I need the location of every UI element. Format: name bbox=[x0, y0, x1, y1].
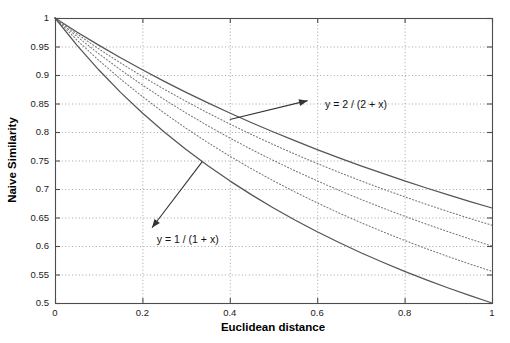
x-tick-label: 1 bbox=[489, 307, 494, 318]
y-tick-label: 0.55 bbox=[31, 269, 50, 280]
y-axis-title: Naive Similarity bbox=[6, 117, 18, 203]
chart-figure: 0.50.550.60.650.70.750.80.850.90.95100.2… bbox=[0, 0, 510, 343]
y-tick-label: 0.9 bbox=[36, 69, 49, 80]
annotation-label-2: y = 1 / (1 + x) bbox=[157, 233, 219, 245]
y-tick-label: 0.5 bbox=[36, 297, 49, 308]
x-tick-label: 0 bbox=[52, 307, 57, 318]
y-tick-label: 0.7 bbox=[36, 183, 49, 194]
y-tick-label: 1 bbox=[44, 12, 49, 23]
x-tick-label: 0.4 bbox=[223, 307, 236, 318]
y-tick-label: 0.6 bbox=[36, 240, 49, 251]
y-tick-label: 0.8 bbox=[36, 126, 49, 137]
y-tick-label: 0.95 bbox=[31, 41, 50, 52]
x-tick-label: 0.8 bbox=[398, 307, 411, 318]
x-tick-label: 0.6 bbox=[311, 307, 324, 318]
y-tick-label: 0.75 bbox=[31, 155, 50, 166]
y-tick-label: 0.65 bbox=[31, 212, 50, 223]
x-tick-label: 0.2 bbox=[136, 307, 149, 318]
chart-background bbox=[0, 0, 510, 343]
annotation-label-1: y = 2 / (2 + x) bbox=[325, 98, 387, 110]
x-axis-title: Euclidean distance bbox=[221, 321, 325, 333]
chart-canvas: 0.50.550.60.650.70.750.80.850.90.95100.2… bbox=[0, 0, 510, 343]
y-tick-label: 0.85 bbox=[31, 98, 50, 109]
